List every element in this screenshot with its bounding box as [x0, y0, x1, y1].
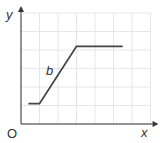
origin-label: O: [7, 127, 17, 140]
line-chart: y x O b: [0, 0, 160, 143]
x-axis-label: x: [141, 126, 148, 139]
y-axis-label: y: [6, 8, 13, 21]
x-axis-arrow-icon: [153, 121, 159, 127]
series-label-b: b: [46, 64, 53, 77]
series-line-b: [28, 46, 122, 103]
plot-area: [0, 0, 160, 143]
data-series: [28, 46, 122, 103]
y-axis-arrow-icon: [18, 6, 24, 12]
grid-lines: [21, 13, 151, 124]
